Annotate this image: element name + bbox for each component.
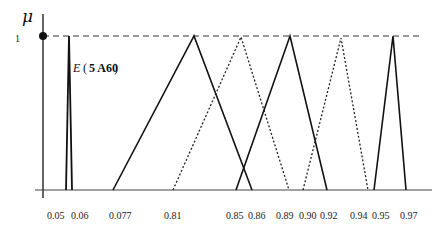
x-tick: 0.86	[248, 210, 266, 221]
annotation-e-5a60: E ( 5 A60 )	[72, 61, 118, 75]
x-tick: 0.05	[47, 210, 65, 221]
x-tick: 0.81	[164, 210, 182, 221]
x-tick-labels: 0.05 0.06 0.077 0.81 0.85 0.86 0.89 0.90…	[47, 210, 418, 221]
series-triangle-2	[173, 37, 289, 190]
x-tick: 0.92	[320, 210, 338, 221]
series-triangle-5	[374, 36, 406, 190]
unit-point-marker	[39, 32, 47, 40]
x-tick: 0.06	[71, 210, 89, 221]
svg-text:): )	[114, 61, 118, 75]
series-triangle-4	[303, 38, 368, 190]
x-tick: 0.85	[226, 210, 244, 221]
x-tick: 0.97	[400, 210, 418, 221]
svg-text:(: (	[83, 61, 87, 75]
svg-text:E: E	[72, 61, 81, 75]
x-tick: 0.89	[276, 210, 294, 221]
x-tick: 0.077	[109, 210, 132, 221]
series-e-5a60	[66, 36, 72, 190]
fuzzy-membership-chart: μ 1 E ( 5 A60 ) 0.05 0.06 0.077 0.81 0.8…	[0, 0, 447, 235]
series-triangle-3	[236, 36, 327, 190]
x-tick: 0.95	[372, 210, 390, 221]
series-triangle-1	[113, 36, 252, 190]
y-tick-1: 1	[15, 33, 20, 44]
x-tick: 0.90	[299, 210, 317, 221]
x-tick: 0.94	[350, 210, 368, 221]
y-axis-label: μ	[22, 6, 33, 26]
